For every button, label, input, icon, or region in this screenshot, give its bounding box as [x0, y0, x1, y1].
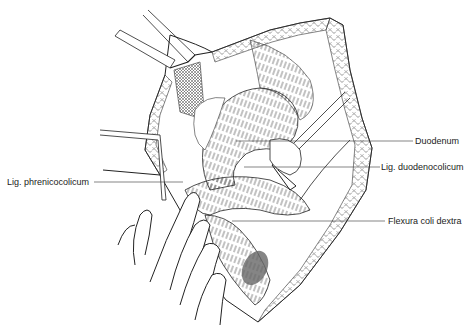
label-duodenum: Duodenum [415, 136, 459, 146]
label-flexura-coli-dextra: Flexura coli dextra [388, 216, 462, 226]
surgical-illustration: Duodenum Lig. duodenocolicum Lig. phreni… [0, 0, 476, 334]
label-lig-phrenicocolicum: Lig. phrenicocolicum [7, 177, 89, 187]
label-lig-duodenocolicum: Lig. duodenocolicum [381, 162, 464, 172]
